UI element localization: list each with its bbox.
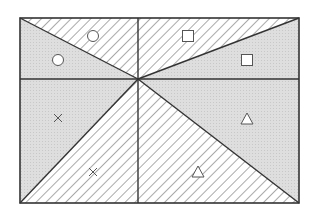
square-marker-icon (242, 55, 253, 66)
square-marker-icon (183, 31, 194, 42)
circle-marker-icon (53, 55, 64, 66)
regions (20, 18, 299, 203)
partition-diagram (0, 0, 324, 213)
circle-marker-icon (88, 31, 99, 42)
